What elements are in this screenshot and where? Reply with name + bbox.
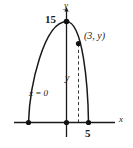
x-axis-label: x bbox=[119, 115, 123, 124]
height-label: y bbox=[65, 73, 69, 83]
right-root-value-label: 5 bbox=[85, 128, 91, 139]
left-root-point bbox=[26, 120, 31, 125]
y-axis-label: y bbox=[64, 1, 68, 10]
vertex-value-label: 15 bbox=[45, 14, 56, 25]
left-branch-equation-label: x = 0 bbox=[29, 89, 48, 98]
right-root-point bbox=[86, 120, 91, 125]
parabola-figure: y x 15 (3, y) x = 0 y 5 bbox=[0, 0, 133, 148]
parabola-curve bbox=[29, 22, 89, 123]
origin-point bbox=[64, 120, 69, 125]
sample-point bbox=[76, 41, 81, 46]
sample-point-label: (3, y) bbox=[84, 31, 105, 41]
vertex-point bbox=[64, 19, 70, 25]
